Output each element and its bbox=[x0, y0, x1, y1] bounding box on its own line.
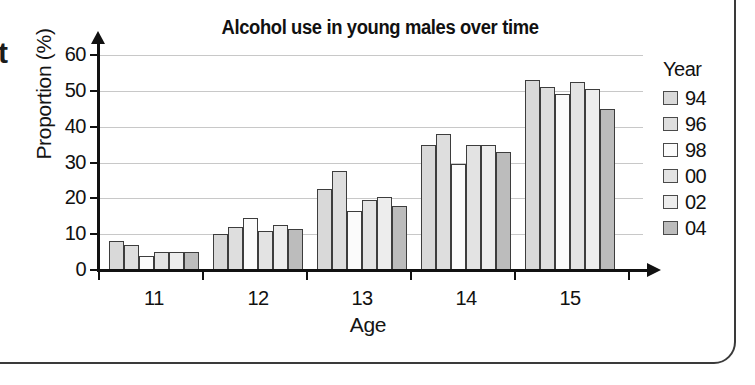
plot-inner: 0102030405060 1112131415 bbox=[98, 55, 638, 270]
gridline bbox=[98, 91, 643, 92]
x-axis-tick bbox=[410, 271, 412, 280]
bar bbox=[184, 252, 199, 270]
y-axis-tick-label: 40 bbox=[65, 115, 86, 138]
bar bbox=[124, 245, 139, 270]
x-axis-tick-label: 11 bbox=[144, 287, 164, 310]
bar bbox=[317, 189, 332, 270]
bar bbox=[540, 87, 555, 270]
legend-item: 94 bbox=[663, 85, 753, 111]
bar bbox=[600, 109, 615, 270]
legend-item-label: 96 bbox=[685, 114, 706, 134]
stray-cutoff-glyph: t bbox=[0, 36, 7, 70]
bar bbox=[288, 229, 303, 270]
bar bbox=[377, 197, 392, 270]
y-axis-tick-label: 50 bbox=[65, 79, 86, 102]
y-axis-tick-label: 10 bbox=[65, 222, 86, 245]
x-axis-line bbox=[97, 269, 649, 272]
legend-item: 04 bbox=[663, 215, 753, 241]
legend-item-label: 04 bbox=[685, 218, 706, 238]
legend-title: Year bbox=[663, 58, 753, 81]
x-axis-title: Age bbox=[98, 313, 638, 337]
legend-item-label: 00 bbox=[685, 166, 706, 186]
bar bbox=[109, 241, 124, 270]
bar bbox=[273, 225, 288, 270]
bar bbox=[258, 231, 273, 270]
legend-swatch-icon bbox=[663, 143, 678, 157]
x-axis-tick bbox=[98, 271, 100, 280]
x-axis-tick bbox=[628, 271, 630, 280]
x-axis-tick bbox=[514, 271, 516, 280]
chart-page: t Alcohol use in young males over time P… bbox=[0, 0, 755, 385]
y-axis-line bbox=[97, 41, 100, 270]
x-axis-tick-label: 14 bbox=[455, 287, 476, 310]
bar bbox=[436, 134, 451, 270]
bar bbox=[154, 252, 169, 270]
bar bbox=[496, 152, 511, 270]
bar bbox=[169, 252, 184, 270]
y-axis-tick-label: 0 bbox=[75, 258, 86, 281]
legend-swatch-icon bbox=[663, 117, 678, 131]
legend-item-label: 98 bbox=[685, 140, 706, 160]
x-axis-tick bbox=[202, 271, 204, 280]
gridline bbox=[98, 55, 643, 56]
y-axis-tick-label: 60 bbox=[65, 43, 86, 66]
bar bbox=[451, 164, 466, 270]
x-axis-tick-label: 12 bbox=[247, 287, 268, 310]
bar bbox=[213, 234, 228, 270]
bar bbox=[585, 89, 600, 270]
legend-item-label: 94 bbox=[685, 88, 706, 108]
legend-items: 949698000204 bbox=[663, 85, 753, 241]
bar bbox=[466, 145, 481, 270]
legend-item: 98 bbox=[663, 137, 753, 163]
bar bbox=[362, 200, 377, 270]
bar bbox=[525, 80, 540, 270]
bar bbox=[228, 227, 243, 270]
legend-item: 02 bbox=[663, 189, 753, 215]
plot-area: 0102030405060 1112131415 bbox=[98, 55, 638, 270]
bar bbox=[332, 171, 347, 270]
legend-swatch-icon bbox=[663, 195, 678, 209]
bar bbox=[481, 145, 496, 270]
legend-swatch-icon bbox=[663, 221, 678, 235]
bar bbox=[139, 256, 154, 270]
bar bbox=[570, 82, 585, 270]
legend-swatch-icon bbox=[663, 91, 678, 105]
legend: Year 949698000204 bbox=[663, 58, 753, 241]
chart-title: Alcohol use in young males over time bbox=[141, 16, 619, 39]
bar bbox=[555, 94, 570, 270]
bar bbox=[243, 218, 258, 270]
x-axis-tick-label: 13 bbox=[351, 287, 372, 310]
y-axis-title: Proportion (%) bbox=[32, 4, 56, 184]
x-axis-tick bbox=[306, 271, 308, 280]
bar bbox=[392, 206, 407, 271]
y-axis-tick-label: 30 bbox=[65, 151, 86, 174]
legend-item-label: 02 bbox=[685, 192, 706, 212]
bar bbox=[347, 211, 362, 270]
x-axis-tick-label: 15 bbox=[559, 287, 580, 310]
legend-item: 00 bbox=[663, 163, 753, 189]
bar bbox=[421, 145, 436, 270]
legend-swatch-icon bbox=[663, 169, 678, 183]
legend-item: 96 bbox=[663, 111, 753, 137]
y-axis-tick-label: 20 bbox=[65, 186, 86, 209]
y-axis-arrow-icon bbox=[91, 31, 105, 44]
x-axis-arrow-icon bbox=[647, 263, 661, 277]
